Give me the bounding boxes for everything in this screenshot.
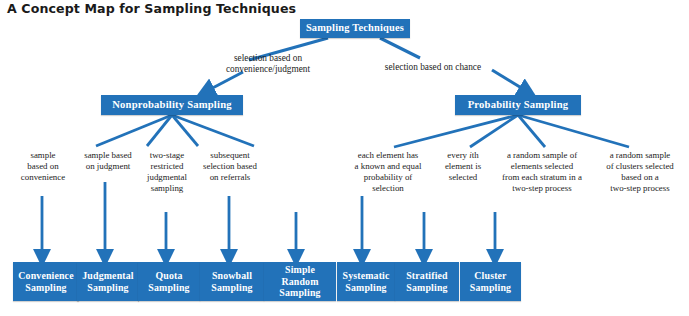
description-judgmental: sample basedon judgment <box>75 150 141 172</box>
description-quota: two-stagerestrictedjudgmentalsampling <box>139 150 195 195</box>
node-convenience-sampling[interactable]: ConvenienceSampling <box>13 262 79 301</box>
node-sampling-techniques[interactable]: Sampling Techniques <box>300 19 410 38</box>
connector-nonprobability-quota <box>172 115 198 146</box>
description-convenience: samplebased onconvenience <box>10 150 76 183</box>
description-cluster: a random sampleof clusters selectedbased… <box>594 150 686 195</box>
connector-nonprobability-convenience <box>96 115 172 146</box>
connector-probability-cluster <box>518 115 629 147</box>
node-quota-sampling[interactable]: QuotaSampling <box>138 262 200 301</box>
node-simple-random-sampling[interactable]: Simple RandomSampling <box>264 262 336 301</box>
description-snowball: subsequentselection basedon referrals <box>192 150 268 183</box>
concept-map-canvas: A Concept Map for Sampling Techniques <box>0 0 689 316</box>
node-judgmental-sampling[interactable]: JudgmentalSampling <box>77 262 139 301</box>
node-snowball-sampling[interactable]: SnowballSampling <box>200 262 264 301</box>
connector-probability-arrow <box>492 70 528 92</box>
page-title: A Concept Map for Sampling Techniques <box>7 1 296 16</box>
connector-probability-systematic <box>470 115 518 147</box>
node-cluster-sampling[interactable]: ClusterSampling <box>460 262 521 301</box>
node-systematic-sampling[interactable]: SystematicSampling <box>337 262 395 301</box>
edge-label-to-nonprobability: selection based on convenience/judgment <box>205 53 331 76</box>
connector-nonprobability-snowball <box>172 115 254 146</box>
node-stratified-sampling[interactable]: StratifiedSampling <box>395 262 459 301</box>
node-probability-sampling[interactable]: Probability Sampling <box>455 95 581 115</box>
connector-nonprobability-judgmental <box>147 115 172 146</box>
edge-label-to-probability: selection based on chance <box>378 62 488 73</box>
description-simple-random: each element hasa known and equalprobabi… <box>340 150 436 195</box>
node-nonprobability-sampling[interactable]: Nonprobability Sampling <box>101 95 243 115</box>
connector-root-to-probability <box>380 38 420 58</box>
connector-probability-stratified <box>518 115 545 147</box>
description-stratified: a random sample ofelements selectedfrom … <box>487 150 597 195</box>
connector-probability-simple-random <box>394 115 518 147</box>
description-systematic: every ithelement isselected <box>434 150 492 183</box>
